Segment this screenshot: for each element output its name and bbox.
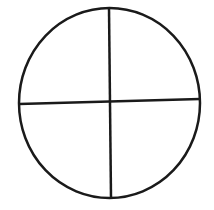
quadrant-circle-diagram <box>0 0 214 210</box>
vertical-divider <box>109 8 111 198</box>
